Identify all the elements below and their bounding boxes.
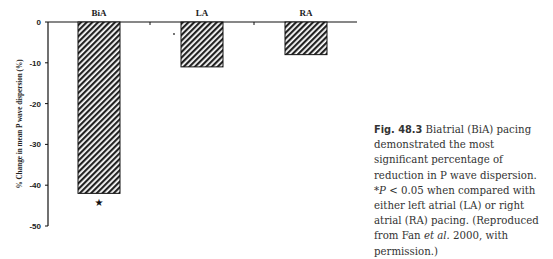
- y-tick-label: -10: [29, 59, 41, 68]
- scan-artifact-dot: [173, 33, 175, 35]
- bar-chart: 0-10-20-30-40-50% Change in mean P wave …: [0, 0, 360, 249]
- y-tick-label: -40: [29, 181, 41, 190]
- category-label-bia: BiA: [91, 8, 107, 18]
- y-tick-label: -30: [29, 140, 41, 149]
- figure-caption: Fig. 48.3 Biatrial (BiA) pacing demonstr…: [374, 122, 550, 259]
- y-tick-label: -20: [29, 100, 41, 109]
- category-label-la: LA: [196, 8, 209, 18]
- bar-ra: [285, 22, 327, 55]
- figure-label: Fig. 48.3: [374, 124, 422, 135]
- bar-bia: [78, 22, 120, 193]
- bar-la: [181, 22, 223, 67]
- y-axis-label: % Change in mean P wave dispersion (%): [16, 59, 24, 189]
- caption-p-italic: P: [379, 185, 386, 196]
- category-label-ra: RA: [300, 8, 313, 18]
- bars: [78, 22, 327, 193]
- y-tick-label: 0: [37, 18, 42, 27]
- y-tick-label: -50: [29, 222, 41, 231]
- significance-star-icon: ★: [95, 197, 104, 208]
- caption-etal: et al.: [424, 230, 450, 241]
